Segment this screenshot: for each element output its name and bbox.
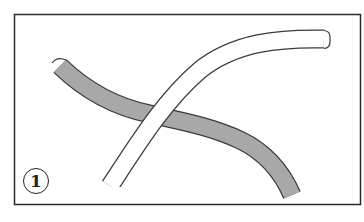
step-number-badge: 1	[23, 168, 49, 194]
diagram-canvas	[0, 0, 364, 222]
knot-diagram-step: 1	[0, 0, 364, 222]
